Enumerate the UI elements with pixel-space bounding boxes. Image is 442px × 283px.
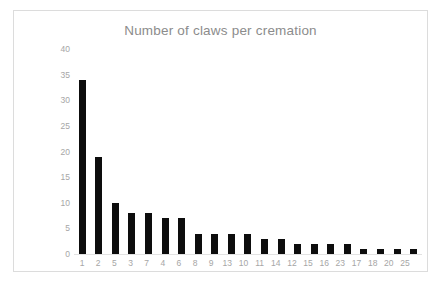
x-axis-tick-label: 7 [144,258,149,268]
x-axis-tick-label: 6 [177,258,182,268]
x-axis-tick-label: 2 [96,258,101,268]
bar-column [124,49,141,254]
x-axis-tick-label: 12 [287,258,296,268]
bar [95,157,102,254]
x-axis-tick-label: 1 [80,258,85,268]
bar [128,213,135,254]
x-axis-tick-label: 5 [112,258,117,268]
bar [228,234,235,255]
y-axis-tick-label: 25 [61,121,70,131]
x-axis-tick-label: 25 [400,258,409,268]
chart-title: Number of claws per cremation [14,23,427,38]
bar-column [323,49,340,254]
bar [311,244,318,254]
bar-column [389,49,406,254]
bar-column [173,49,190,254]
bar-column [405,49,422,254]
x-axis-tick-label: 11 [255,258,264,268]
x-axis-tick-label: 9 [209,258,214,268]
bar-column [256,49,273,254]
plot-area: 4035302520151050 [46,49,422,254]
y-axis-tick-label: 40 [61,44,70,54]
x-axis-tick-label: 16 [319,258,328,268]
x-axis-tick-label: 10 [239,258,248,268]
y-axis-tick-label: 5 [65,223,70,233]
bar [244,234,251,255]
x-axis-tick-label: 18 [368,258,377,268]
bar-column [306,49,323,254]
y-axis-tick-label: 35 [61,70,70,80]
chart-frame: Number of claws per cremation 4035302520… [13,10,428,272]
bar-column [190,49,207,254]
bar [261,239,268,254]
bar-column [157,49,174,254]
x-axis-line [74,254,422,255]
bar [195,234,202,255]
x-axis-tick-label: 20 [384,258,393,268]
x-axis-tick-label: 15 [303,258,312,268]
bar [162,218,169,254]
bar-column [339,49,356,254]
bar-column [223,49,240,254]
x-axis: 125374689131011141215162317182025 [74,258,413,272]
bar [211,234,218,255]
bar [112,203,119,254]
bars-region [74,49,422,254]
bar [327,244,334,254]
bar [294,244,301,254]
x-axis-tick-label: 3 [128,258,133,268]
bar-column [273,49,290,254]
bar-column [207,49,224,254]
y-axis-tick-label: 15 [61,172,70,182]
x-axis-tick-label: 13 [223,258,232,268]
x-axis-tick-label: 14 [271,258,280,268]
bar [178,218,185,254]
x-axis-tick-label: 4 [160,258,165,268]
bar-column [240,49,257,254]
bar-column [91,49,108,254]
bar-column [372,49,389,254]
bar [344,244,351,254]
x-axis-tick-label: 23 [336,258,345,268]
x-axis-tick-label: 17 [352,258,361,268]
bar-column [107,49,124,254]
y-axis-tick-label: 10 [61,198,70,208]
bar-column [356,49,373,254]
bar-column [74,49,91,254]
y-axis-tick-label: 20 [61,147,70,157]
bar [79,80,86,254]
y-axis: 4035302520151050 [46,49,74,254]
bar-column [289,49,306,254]
y-axis-tick-label: 30 [61,95,70,105]
bar [145,213,152,254]
bar-column [140,49,157,254]
y-axis-tick-label: 0 [65,249,70,259]
x-axis-tick-label: 8 [193,258,198,268]
bar [278,239,285,254]
